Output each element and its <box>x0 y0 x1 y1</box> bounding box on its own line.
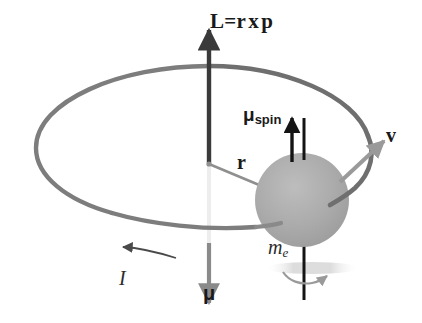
label-mu-spin-subscript: spin <box>255 112 282 127</box>
diagram-canvas <box>0 0 422 323</box>
label-L-symbol: L <box>210 9 224 33</box>
label-angular-momentum: L=r x p <box>210 11 273 32</box>
label-L-equals: = <box>224 9 236 33</box>
label-L-cross: x <box>248 9 259 33</box>
label-spin-magnetic-moment: μspin <box>243 105 281 126</box>
shadow-ellipse <box>265 262 359 274</box>
label-L-p: p <box>261 9 273 33</box>
label-L-r: r <box>237 9 247 33</box>
physics-diagram: L=r x p μspin v r me I μ <box>0 0 422 323</box>
current-direction-arrow <box>123 247 176 258</box>
label-current: I <box>119 268 126 288</box>
label-velocity: v <box>386 125 396 145</box>
label-electron-mass: me <box>268 237 288 259</box>
label-radius: r <box>237 152 246 172</box>
velocity-arrow <box>340 141 384 182</box>
label-me-base: m <box>268 236 282 258</box>
label-mu-spin-base: μ <box>243 104 255 125</box>
label-magnetic-moment: μ <box>203 283 215 303</box>
label-me-subscript: e <box>282 245 288 260</box>
